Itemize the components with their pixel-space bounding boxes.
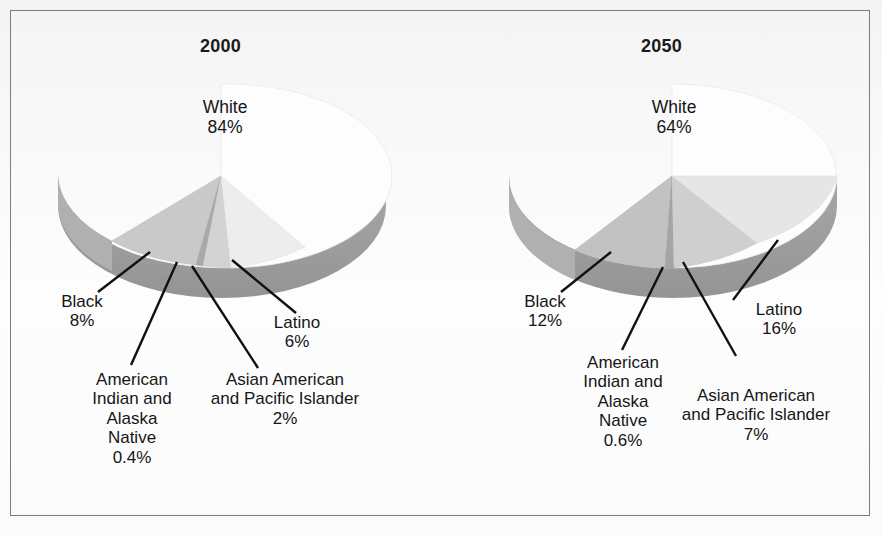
slice-label-latino-name: Latino [274,313,320,332]
slice-label-asian-american-l2: and Pacific Islander [185,389,385,408]
figure-canvas: 2000 [0,0,882,536]
slice-label-asian-american: Asian American and Pacific Islander 2% [185,370,385,428]
slice-label-latino: Latino 6% [242,313,352,352]
pie-side-wall-black [58,176,112,271]
slice-label-american-indian-l2: Indian and [62,389,202,408]
pie-side-wall-black [509,176,575,280]
pie-chart-2050 [441,0,882,536]
slice-label-asian-american-l1: Asian American [185,370,385,389]
pie-slice-black [575,176,672,268]
slice-label-american-indian: American Indian and Alaska Native 0.4% [62,370,202,467]
slice-label-latino-pct: 6% [242,332,352,351]
slice-label-asian-american-l1: Asian American [656,386,856,405]
slice-label-white-name: White [203,97,248,117]
slice-label-black: Black 8% [26,292,138,331]
slice-label-black-pct: 12% [489,311,601,330]
chart-panel-2050: 2050 [441,0,882,536]
slice-label-asian-american-pct: 7% [656,425,856,444]
slice-label-asian-american-pct: 2% [185,409,385,428]
slice-label-american-indian-l3: Alaska [62,409,202,428]
slice-label-american-indian-l4: Native [62,428,202,447]
slice-label-asian-american-l2: and Pacific Islander [656,405,856,424]
slice-label-white: White 64% [599,98,749,138]
slice-label-american-indian-l1: American [553,353,693,372]
slice-label-black-name: Black [61,292,103,311]
slice-label-latino: Latino 16% [724,300,834,339]
slice-label-black-pct: 8% [26,311,138,330]
slice-label-white-name: White [652,97,697,117]
slice-label-asian-american: Asian American and Pacific Islander 7% [656,386,856,444]
slice-label-white-pct: 64% [599,118,749,138]
slice-label-white: White 84% [150,98,300,138]
slice-label-black: Black 12% [489,292,601,331]
slice-label-white-pct: 84% [150,118,300,138]
slice-label-black-name: Black [524,292,566,311]
slice-label-american-indian-pct: 0.4% [62,448,202,467]
slice-label-latino-name: Latino [756,300,802,319]
chart-panel-2000: 2000 [0,0,441,536]
slice-label-american-indian-l1: American [62,370,202,389]
slice-label-latino-pct: 16% [724,319,834,338]
